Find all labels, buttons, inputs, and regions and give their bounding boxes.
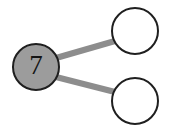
edge-root-to-top-child	[56, 41, 115, 58]
node-root-label: 7	[29, 50, 43, 80]
nodes-group: 7	[13, 8, 158, 124]
node-child-top[interactable]	[112, 8, 158, 54]
node-root[interactable]: 7	[13, 44, 59, 90]
edge-root-to-bottom-child	[56, 77, 115, 92]
node-child-bottom-circle[interactable]	[112, 78, 158, 124]
node-child-top-circle[interactable]	[112, 8, 158, 54]
graph-svg: 7	[0, 0, 173, 135]
edges-group	[56, 41, 115, 92]
node-child-bottom[interactable]	[112, 78, 158, 124]
diagram-canvas: 7	[0, 0, 173, 135]
